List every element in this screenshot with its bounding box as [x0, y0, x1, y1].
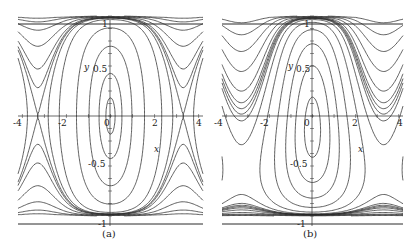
y-axis-label: y [84, 63, 89, 72]
x-tick-neg2: -2 [58, 119, 67, 128]
x-tick-neg4: -4 [13, 119, 22, 128]
y-tick-1: 1 [304, 20, 310, 29]
phase-portrait-b [210, 0, 420, 240]
x-tick-2: 2 [152, 119, 158, 128]
x-tick-neg4: -4 [214, 119, 223, 128]
x-tick-0: 0 [304, 119, 310, 128]
panel-a: -4 -2 0 2 4 1 0.5 y -0.5 x -1 (a) [0, 0, 210, 240]
x-tick-4: 4 [196, 119, 202, 128]
caption-a: (a) [102, 228, 116, 239]
x-axis-label: x [358, 145, 363, 154]
panel-b: -4 -2 0 2 4 1 0.5 y -0.5 x -1 (b) [210, 0, 420, 240]
x-tick-neg2: -2 [260, 119, 269, 128]
x-tick-2: 2 [352, 119, 358, 128]
x-tick-4: 4 [397, 119, 403, 128]
x-axis-label: x [154, 145, 159, 154]
y-tick-1: 1 [102, 20, 108, 29]
y-tick-0.5: 0.5 [296, 65, 310, 74]
y-axis-label: y [288, 62, 293, 71]
y-tick-0.5: 0.5 [93, 65, 107, 74]
x-tick-0: 0 [104, 119, 110, 128]
caption-b: (b) [303, 228, 317, 239]
y-tick-neg0.5: -0.5 [88, 160, 105, 169]
y-tick-neg0.5: -0.5 [290, 160, 307, 169]
